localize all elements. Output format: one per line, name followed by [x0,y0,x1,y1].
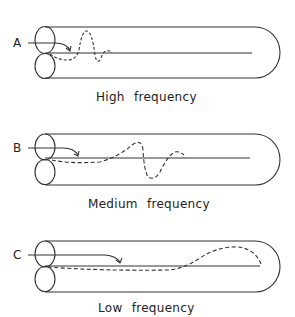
tube-a [28,27,280,79]
panel-a-caption: High frequency [96,90,197,104]
panel-c-letter: C [13,248,21,262]
tube-b [28,134,280,185]
panel-c-caption: Low frequency [98,301,195,315]
diagram-canvas [0,0,295,317]
panel-a-letter: A [13,36,21,50]
panel-b-letter: B [13,141,21,155]
tube-c [28,241,280,292]
panel-b-caption: Medium frequency [88,197,210,211]
